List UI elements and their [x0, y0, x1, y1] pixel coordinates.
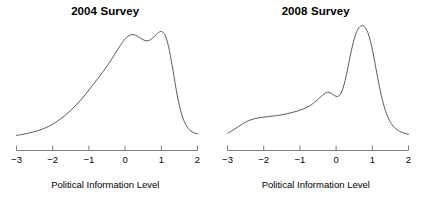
axis-tick-label: 1: [369, 154, 374, 165]
x-axis-label-2008: Political Information Level: [211, 179, 421, 191]
axis-tick-label: 1: [159, 154, 164, 165]
panel-2004: 2004 Survey −3−2−1012 Political Informat…: [0, 0, 211, 199]
axis-tick-label: −2: [258, 154, 269, 165]
axis-tick-label: 2: [195, 154, 200, 165]
axis-tick-label: 0: [122, 154, 127, 165]
x-axis-label-2004: Political Information Level: [0, 179, 211, 191]
density-curve-2004: [17, 31, 198, 135]
x-axis-2004: −3−2−1012: [11, 146, 200, 165]
density-plot-figure: 2004 Survey −3−2−1012 Political Informat…: [0, 0, 421, 199]
plot-area-2004: −3−2−1012: [0, 0, 211, 199]
axis-tick-label: −3: [222, 154, 233, 165]
axis-tick-label: −3: [11, 154, 22, 165]
axis-tick-label: 0: [333, 154, 338, 165]
curve-group-2008: [227, 26, 408, 135]
x-axis-2008: −3−2−1012: [222, 146, 411, 165]
panel-2008: 2008 Survey −3−2−1012 Political Informat…: [211, 0, 421, 199]
axis-tick-label: 2: [405, 154, 410, 165]
axis-tick-label: −1: [294, 154, 305, 165]
plot-area-2008: −3−2−1012: [211, 0, 421, 199]
axis-tick-label: −2: [47, 154, 58, 165]
density-curve-2008: [227, 26, 408, 135]
axis-tick-label: −1: [83, 154, 94, 165]
curve-group-2004: [17, 31, 198, 135]
